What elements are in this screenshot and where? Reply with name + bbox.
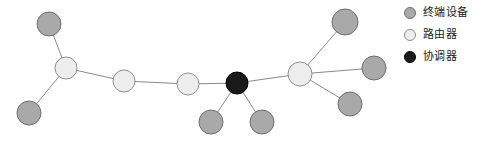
legend-label-end-device: 终端设备 — [423, 6, 468, 19]
legend-label-router: 路由器 — [423, 28, 457, 41]
legend-item-router: 路由器 — [404, 28, 494, 41]
coordinator-marker-icon — [404, 51, 416, 63]
node-router-r2[interactable] — [113, 70, 135, 92]
link-layer — [29, 22, 374, 122]
node-end-device-e7[interactable] — [338, 92, 362, 116]
node-end-device-e4[interactable] — [250, 110, 274, 134]
node-coordinator-c1[interactable] — [226, 72, 248, 94]
node-end-device-e1[interactable] — [37, 12, 61, 36]
router-marker-icon — [404, 29, 416, 41]
node-end-device-e6[interactable] — [362, 56, 386, 80]
network-topology-diagram: 终端设备 路由器 协调器 — [0, 0, 494, 150]
node-end-device-e2[interactable] — [17, 101, 41, 125]
node-end-device-e5[interactable] — [332, 9, 358, 35]
node-router-r3[interactable] — [177, 73, 199, 95]
legend: 终端设备 路由器 协调器 — [404, 6, 494, 63]
legend-label-coordinator: 协调器 — [423, 50, 457, 63]
legend-item-end-device: 终端设备 — [404, 6, 494, 19]
end-device-marker-icon — [404, 7, 416, 19]
node-end-device-e3[interactable] — [199, 110, 223, 134]
node-router-r4[interactable] — [288, 62, 312, 86]
node-router-r1[interactable] — [55, 57, 77, 79]
legend-item-coordinator: 协调器 — [404, 50, 494, 63]
